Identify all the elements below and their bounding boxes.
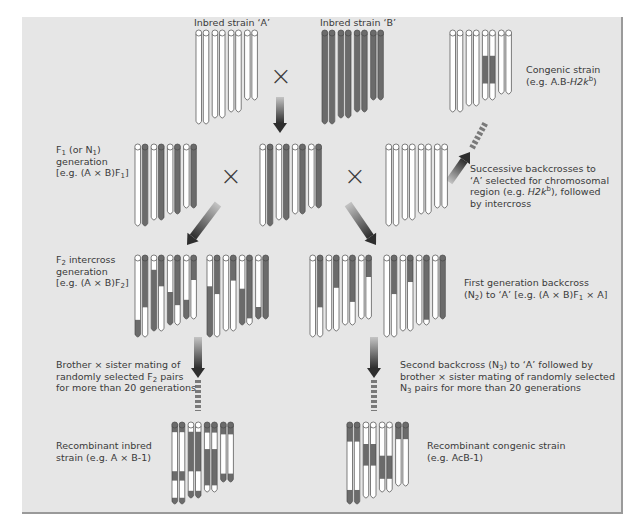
chromosome	[409, 144, 415, 221]
chromosome	[203, 30, 209, 125]
chromosome	[276, 144, 282, 221]
chromosome	[260, 144, 266, 227]
chromosome	[450, 30, 456, 113]
f2-generation-right	[207, 255, 269, 338]
inbred-strain-a	[196, 30, 258, 125]
chromosome	[252, 30, 258, 101]
chromosome	[135, 144, 141, 227]
chromosome	[395, 422, 401, 487]
chromosome	[219, 30, 225, 119]
chromosome	[316, 144, 322, 209]
chromosome	[142, 144, 148, 227]
chromosome	[308, 144, 314, 209]
label-recombinant-congenic: Recombinant congenic strain (e.g. AcB-1)	[427, 440, 565, 463]
chromosome	[425, 144, 431, 215]
arrow-parents-to-f1-icon	[273, 97, 287, 133]
chromosome	[407, 255, 413, 332]
chromosome	[167, 255, 173, 326]
chromosome	[345, 30, 351, 119]
chromosome	[228, 30, 234, 113]
chromosome	[255, 255, 261, 320]
chromosome	[183, 144, 189, 209]
chromosome	[183, 255, 189, 320]
chromosome	[489, 30, 495, 101]
recombinant-inbred-strain	[172, 422, 234, 505]
chromosome	[440, 255, 446, 320]
f2-generation-left	[135, 255, 197, 338]
chromosome	[310, 255, 316, 338]
chromosome	[204, 422, 210, 493]
chromosome	[342, 255, 348, 326]
arrow-f1-to-backcross-icon	[345, 202, 376, 245]
label-recombinant-inbred: Recombinant inbred strain (e.g. A × B-1)	[56, 440, 152, 463]
chromosome	[230, 255, 236, 332]
chromosome	[498, 30, 504, 95]
chromosome	[220, 422, 226, 483]
arrow-n2-to-rc-icon	[367, 337, 381, 378]
chromosome	[416, 255, 422, 326]
chromosome	[349, 255, 355, 326]
chromosome	[179, 422, 185, 505]
chromosome	[482, 30, 488, 101]
chromosome	[338, 30, 344, 119]
label-second-backcross: Second backcross (N3) to ‘A’ followed by…	[400, 359, 615, 394]
chromosome	[432, 255, 438, 320]
chromosome	[235, 30, 241, 113]
chromosome	[223, 255, 229, 332]
cross-symbol-parents: ×	[270, 63, 292, 89]
chromosome	[322, 30, 328, 125]
dashed-congenic-generations	[472, 122, 486, 148]
chromosome	[267, 144, 273, 227]
chromosome	[188, 422, 194, 499]
chromosome	[158, 255, 164, 332]
chromosome	[506, 30, 512, 95]
arrow-backcross-to-congenic-icon	[446, 152, 470, 184]
recombinant-congenic-strain	[347, 422, 409, 505]
chromosome	[292, 144, 298, 215]
label-brother-sister-f2: Brother × sister mating of randomly sele…	[56, 359, 196, 394]
chromosome	[378, 30, 384, 101]
f1-generation-left	[135, 144, 197, 227]
chromosome	[158, 144, 164, 221]
label-f1-generation: F1 (or N1) generation [e.g. (A × B)F1]	[56, 144, 129, 179]
chromosome	[191, 144, 197, 209]
chromosome	[211, 422, 217, 493]
chromosome	[283, 144, 289, 221]
chromosome	[333, 255, 339, 332]
chromosome	[361, 30, 367, 113]
chromosome	[442, 144, 448, 209]
chromosome	[358, 255, 364, 320]
chromosome	[135, 255, 141, 338]
chromosome	[196, 30, 202, 125]
f1-generation-center	[260, 144, 322, 227]
chromosome	[393, 144, 399, 227]
chromosome	[151, 144, 157, 221]
label-inbred-strain-b: Inbred strain ‘B’	[320, 17, 396, 29]
label-inbred-strain-a: Inbred strain ‘A’	[194, 17, 270, 29]
chromosome	[384, 255, 390, 338]
arrow-f1-to-f2-icon	[187, 202, 221, 245]
chromosome	[263, 255, 269, 320]
label-congenic-strain: Congenic strain (e.g. A.B-H2kb)	[526, 64, 600, 87]
chromosome	[466, 30, 472, 107]
congenic-strain	[450, 30, 512, 113]
chromosome	[142, 255, 148, 338]
chromosome	[239, 255, 245, 326]
backcross-parent-a	[386, 144, 448, 227]
chromosomes-layer	[135, 30, 512, 505]
chromosome	[151, 255, 157, 332]
chromosome	[207, 255, 213, 338]
chromosome	[174, 255, 180, 326]
chromosome	[386, 422, 392, 493]
inbred-strain-b	[322, 30, 384, 125]
chromosome	[354, 422, 360, 505]
chromosome	[167, 144, 173, 215]
chromosome	[363, 422, 369, 499]
chromosome	[228, 422, 234, 483]
chromosome	[195, 422, 201, 499]
chromosome	[172, 422, 178, 505]
n2-backcross-left	[310, 255, 372, 338]
chromosome	[379, 422, 385, 493]
chromosome	[354, 30, 360, 113]
cross-symbol-f1-left: ×	[220, 163, 242, 189]
